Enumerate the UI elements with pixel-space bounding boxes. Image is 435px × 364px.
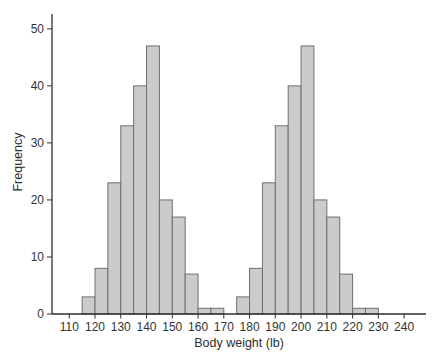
x-tick-label: 230 <box>368 320 388 334</box>
histogram-bar <box>275 126 288 314</box>
tick-labels-layer: 1101201301401501601701801902002102202302… <box>31 22 415 334</box>
histogram-bar <box>262 183 275 314</box>
x-tick-label: 170 <box>214 320 234 334</box>
histogram-bar <box>301 46 314 314</box>
histogram-bar <box>198 308 211 314</box>
histogram-bar <box>147 46 160 314</box>
histogram-bar <box>82 297 95 314</box>
x-axis-title: Body weight (lb) <box>194 336 284 350</box>
histogram-bar <box>365 308 378 314</box>
histogram-bar <box>250 268 263 314</box>
histogram-bar <box>172 217 185 314</box>
x-tick-label: 180 <box>240 320 260 334</box>
histogram-figure: 1101201301401501601701801902002102202302… <box>0 0 435 364</box>
y-tick-label: 10 <box>31 250 45 264</box>
y-tick-label: 20 <box>31 193 45 207</box>
histogram-bar <box>185 274 198 314</box>
x-tick-label: 130 <box>111 320 131 334</box>
histogram-bar <box>134 86 147 314</box>
x-tick-label: 190 <box>265 320 285 334</box>
x-tick-label: 160 <box>188 320 208 334</box>
x-tick-label: 140 <box>137 320 157 334</box>
bars-layer <box>82 46 378 314</box>
histogram-bar <box>159 200 172 314</box>
y-tick-label: 50 <box>31 22 45 36</box>
x-tick-label: 210 <box>317 320 337 334</box>
histogram-bar <box>95 268 108 314</box>
histogram-bar <box>288 86 301 314</box>
histogram-bar <box>327 217 340 314</box>
y-tick-label: 40 <box>31 79 45 93</box>
histogram-bar <box>121 126 134 314</box>
x-tick-label: 120 <box>85 320 105 334</box>
histogram-bar <box>353 308 366 314</box>
chart-canvas: 1101201301401501601701801902002102202302… <box>0 0 435 364</box>
y-axis-title: Frequency <box>11 132 25 192</box>
x-tick-label: 200 <box>291 320 311 334</box>
x-tick-label: 220 <box>343 320 363 334</box>
x-tick-label: 110 <box>60 320 79 334</box>
histogram-bar <box>108 183 121 314</box>
histogram-bar <box>237 297 250 314</box>
y-tick-label: 0 <box>37 307 44 321</box>
x-tick-label: 150 <box>162 320 182 334</box>
histogram-bar <box>211 308 224 314</box>
y-tick-label: 30 <box>31 136 45 150</box>
histogram-bar <box>340 274 353 314</box>
x-tick-label: 240 <box>394 320 414 334</box>
histogram-bar <box>314 200 327 314</box>
